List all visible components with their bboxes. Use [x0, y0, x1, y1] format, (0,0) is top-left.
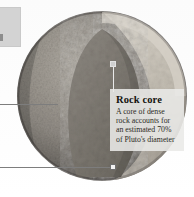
- rock-core-callout: Rock core A core of dense rock accounts …: [110, 89, 184, 151]
- leader-line-lower: [0, 167, 113, 168]
- clipped-side-panel-mark: [0, 34, 3, 41]
- leader-marker-lower: [110, 164, 116, 170]
- figure-canvas: Rock core A core of dense rock accounts …: [0, 0, 194, 197]
- callout-body: A core of dense rock accounts for an est…: [116, 107, 179, 144]
- leader-line-middle: [0, 104, 58, 105]
- callout-title: Rock core: [116, 94, 179, 105]
- leader-line-core-vertical: [113, 65, 114, 92]
- leader-marker-core: [110, 61, 116, 67]
